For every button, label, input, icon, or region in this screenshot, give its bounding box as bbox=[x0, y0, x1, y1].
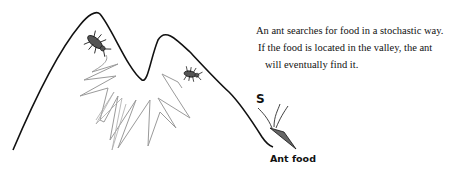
diagram-canvas: S An ant searches for food in a stochast… bbox=[0, 0, 458, 170]
ant-search-trace-2 bbox=[96, 92, 126, 150]
food-label: Ant food bbox=[270, 153, 316, 164]
caption: An ant searches for food in a stochastic… bbox=[256, 22, 456, 73]
food-icon bbox=[258, 104, 296, 149]
ant-search-trace-1 bbox=[80, 55, 190, 148]
mountain-outline bbox=[13, 13, 273, 150]
caption-line: will eventually find it. bbox=[256, 56, 456, 73]
ant-icon bbox=[183, 66, 203, 83]
ant-icon bbox=[82, 29, 115, 61]
caption-line: An ant searches for food in a stochastic… bbox=[256, 22, 456, 39]
start-marker: S bbox=[256, 92, 265, 106]
caption-line: If the food is located in the valley, th… bbox=[256, 39, 456, 56]
